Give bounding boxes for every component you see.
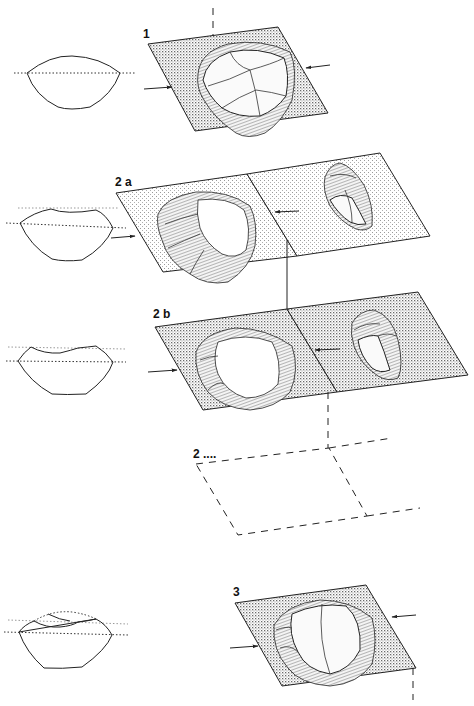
stage-2a: 2 a <box>6 153 430 283</box>
implied-plane-bottom-edge <box>367 508 420 516</box>
profile-stage-3 <box>4 612 128 669</box>
stage-label-2n: 2 .... <box>193 447 216 461</box>
implied-plane-core-side <box>196 448 367 535</box>
arrow-left-stage-2a <box>111 236 135 238</box>
stage-label-2b: 2 b <box>153 307 170 321</box>
implied-plane-top-edge <box>329 438 392 448</box>
profile-stage-2b <box>6 346 126 395</box>
arrow-left-stage-2b <box>148 370 177 372</box>
arrow-left-stage-3 <box>230 646 258 648</box>
stage-3: 3 <box>4 585 416 700</box>
profile-stage-2a <box>6 208 126 261</box>
stage-label-2a: 2 a <box>115 175 132 189</box>
arrow-left-stage-1 <box>144 87 172 89</box>
core-reduction-diagram: 1 2 a <box>0 0 474 706</box>
stage-label-3: 3 <box>233 585 240 599</box>
profile-stage-1 <box>14 56 136 109</box>
stage-2n: 2 .... <box>193 438 420 535</box>
stage-label-1: 1 <box>143 27 150 41</box>
stage-1: 1 <box>14 8 330 137</box>
stage-2b: 2 b <box>6 292 468 410</box>
arrow-right-stage-1 <box>306 65 330 68</box>
arrow-right-stage-3 <box>392 615 416 617</box>
